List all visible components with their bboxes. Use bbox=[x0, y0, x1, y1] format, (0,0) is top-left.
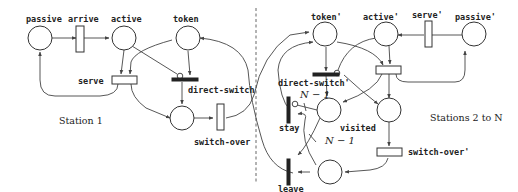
transition-serve-prime-2 bbox=[376, 66, 401, 74]
place-token bbox=[176, 26, 200, 50]
transition-serve-prime bbox=[425, 21, 432, 47]
transition-arrive bbox=[76, 26, 84, 52]
label-arrive: arrive bbox=[68, 14, 99, 24]
transition-leave bbox=[287, 159, 290, 185]
label-switch-over-prime: switch-over' bbox=[408, 147, 469, 157]
petri-net-diagram: passive arrive active token serve direct… bbox=[0, 0, 518, 192]
label-visited: visited bbox=[340, 123, 376, 133]
arc-token-prime-serve-prime bbox=[337, 42, 383, 65]
label-switch-over: switch-over bbox=[194, 137, 250, 147]
label-stay: stay bbox=[279, 123, 299, 133]
label-leave: leave bbox=[278, 184, 304, 192]
transition-switch-over-prime bbox=[377, 148, 402, 156]
label-token-prime: token' bbox=[311, 12, 342, 22]
place-visited bbox=[317, 98, 341, 122]
label-weight-leave: N − 1 bbox=[324, 135, 355, 146]
place-switching bbox=[170, 106, 194, 130]
label-active-prime: active' bbox=[363, 12, 399, 22]
place-passive-prime bbox=[462, 22, 486, 46]
arc-token-directswitch bbox=[188, 51, 190, 75]
label-token: token bbox=[173, 14, 199, 24]
arc-active-prime-serve-prime bbox=[389, 46, 390, 64]
arc-token-serve bbox=[130, 40, 172, 74]
place-active bbox=[112, 26, 136, 50]
arc-leave-token bbox=[200, 38, 293, 173]
title-station-1: Station 1 bbox=[59, 115, 103, 126]
label-serve-prime: serve' bbox=[412, 10, 443, 20]
place-passive bbox=[28, 26, 52, 50]
arc-active-directswitch-inhibitor bbox=[132, 46, 177, 74]
inhibitor-arc-head-3 bbox=[292, 101, 298, 107]
label-passive: passive bbox=[26, 14, 62, 24]
arc-active-serve bbox=[121, 50, 124, 74]
place-active-prime bbox=[374, 22, 398, 46]
arc-switchover-prime-place bbox=[345, 158, 388, 172]
transition-stay bbox=[287, 97, 290, 123]
place-served bbox=[377, 98, 401, 122]
label-active: active bbox=[111, 14, 142, 24]
label-direct-switch: direct-switch bbox=[188, 85, 255, 95]
arc-serve-passive bbox=[40, 52, 118, 96]
label-serve: serve bbox=[78, 76, 104, 86]
arc-serve-visited1 bbox=[131, 84, 170, 118]
arc-serve-prime-passive-prime bbox=[396, 51, 465, 82]
arc-visited-leave bbox=[298, 118, 320, 155]
transition-direct-switch-prime bbox=[313, 73, 339, 76]
place-switched bbox=[318, 160, 342, 184]
place-token-prime bbox=[313, 22, 337, 46]
transition-switch-over bbox=[217, 104, 224, 130]
transition-serve bbox=[112, 76, 137, 84]
label-direct-switch-prime: direct-switch' bbox=[278, 78, 350, 88]
title-stations-2-to-n: Stations 2 to N bbox=[430, 112, 503, 123]
arc-visited-stay-inhibitor bbox=[297, 105, 317, 110]
transition-direct-switch bbox=[172, 78, 198, 81]
label-passive-prime: passive' bbox=[455, 12, 496, 22]
label-weight-stay: N − 1 bbox=[299, 89, 330, 100]
